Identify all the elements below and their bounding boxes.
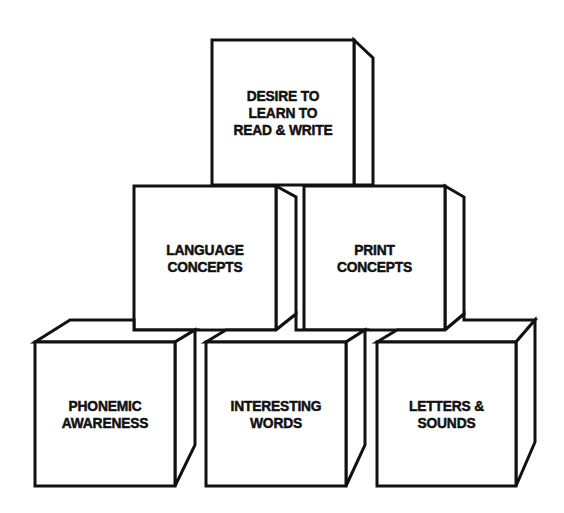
label-line: PRINT <box>354 241 394 258</box>
label-line: LANGUAGE <box>166 241 243 258</box>
label-line: CONCEPTS <box>167 258 242 275</box>
blocks-pyramid-diagram: DESIRE TO LEARN TO READ & WRITE LANGUAGE… <box>0 0 564 513</box>
label-line: AWARENESS <box>62 414 149 431</box>
block-print-concepts-label: PRINT CONCEPTS <box>310 186 440 330</box>
block-language-concepts-label: LANGUAGE CONCEPTS <box>140 186 271 330</box>
label-line: SOUNDS <box>418 414 476 431</box>
label-line: INTERESTING <box>231 397 322 414</box>
label-line: WORDS <box>250 414 302 431</box>
block-interesting-words-label: INTERESTING WORDS <box>212 342 341 486</box>
label-line: LETTERS & <box>409 397 484 414</box>
label-line: LEARN TO <box>249 104 318 121</box>
block-phonemic-awareness-label: PHONEMIC AWARENESS <box>41 342 170 486</box>
label-line: CONCEPTS <box>337 258 412 275</box>
label-line: DESIRE TO <box>247 87 319 104</box>
block-desire-to-learn-label: DESIRE TO LEARN TO READ & WRITE <box>218 40 349 185</box>
label-line: READ & WRITE <box>233 121 332 138</box>
block-letters-sounds-label: LETTERS & SOUNDS <box>383 342 511 486</box>
label-line: PHONEMIC <box>69 397 142 414</box>
